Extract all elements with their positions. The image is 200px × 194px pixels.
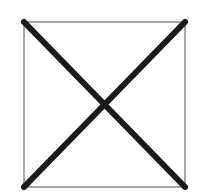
x-mark-in-box-icon [0,0,200,194]
image-placeholder [0,0,200,194]
